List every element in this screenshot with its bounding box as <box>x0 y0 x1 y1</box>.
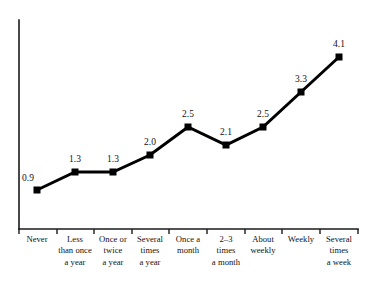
data-point-marker <box>147 152 154 159</box>
data-value-label: 2.0 <box>144 138 156 148</box>
data-value-label: 1.3 <box>107 155 119 165</box>
data-value-label: 2.5 <box>182 110 194 120</box>
x-axis-category-label: Once a month <box>167 234 209 257</box>
data-point-marker <box>260 124 267 131</box>
data-value-label: 3.3 <box>295 75 307 85</box>
data-point-marker <box>223 142 230 149</box>
x-axis-category-label: 2–3 times a month <box>205 234 247 268</box>
data-value-label: 0.9 <box>22 174 34 184</box>
x-axis-category-label: About weekly <box>242 234 284 257</box>
x-axis-category-label: Several times a week <box>318 234 360 268</box>
data-point-marker <box>110 169 117 176</box>
x-axis-category-label: Less than once a year <box>54 234 96 268</box>
line-chart: 0.91.31.32.02.52.12.53.34.1 NeverLess th… <box>0 0 369 291</box>
x-axis-category-label: Never <box>16 234 58 245</box>
data-value-label: 2.1 <box>220 128 232 138</box>
data-point-marker <box>185 124 192 131</box>
x-axis-category-label: Weekly <box>280 234 322 245</box>
x-axis-category-label: Once or twice a year <box>92 234 134 268</box>
data-point-marker <box>34 187 41 194</box>
data-value-label: 2.5 <box>257 110 269 120</box>
data-value-label: 1.3 <box>69 155 81 165</box>
data-point-marker <box>72 169 79 176</box>
data-point-marker <box>336 54 343 61</box>
data-point-marker <box>298 89 305 96</box>
data-value-label: 4.1 <box>333 40 345 50</box>
x-axis-category-label: Several times a year <box>129 234 171 268</box>
